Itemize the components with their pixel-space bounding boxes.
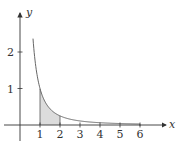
shaded-area: [40, 89, 60, 126]
y-tick-label: 2: [7, 46, 14, 59]
x-axis-label: x: [169, 118, 176, 131]
x-tick-label: 1: [37, 128, 44, 141]
x-tick-label: 6: [137, 128, 144, 141]
y-tick-label: 1: [7, 83, 14, 96]
y-axis-label: y: [25, 6, 33, 19]
x-tick-label: 4: [97, 128, 104, 141]
x-tick-label: 2: [57, 128, 64, 141]
x-tick-label: 3: [77, 128, 84, 141]
x-tick-label: 5: [117, 128, 124, 141]
chart: 123456 12 x y: [0, 0, 177, 147]
